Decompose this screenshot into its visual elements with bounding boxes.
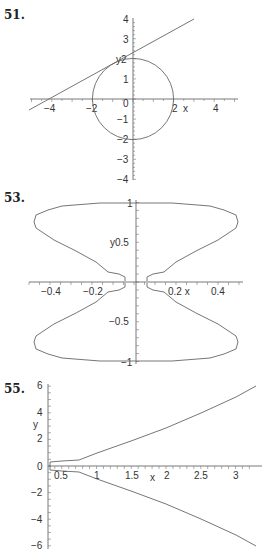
svg-text:2: 2 (164, 470, 170, 481)
svg-text:6: 6 (37, 380, 43, 391)
svg-text:−6: −6 (31, 540, 43, 551)
upper-branch-curve (50, 386, 256, 466)
plot-55: 0.5 1 1.5 x 2 2.5 3 6 4 y 2 0 −2 −4 −6 (0, 0, 267, 556)
svg-text:4: 4 (37, 407, 43, 418)
svg-text:1.5: 1.5 (125, 470, 139, 481)
svg-text:y: y (33, 419, 38, 430)
svg-text:2.5: 2.5 (194, 470, 208, 481)
svg-text:x: x (150, 472, 155, 483)
svg-text:0: 0 (37, 461, 43, 472)
svg-text:−4: −4 (31, 514, 43, 525)
svg-text:3: 3 (233, 470, 239, 481)
svg-text:−2: −2 (31, 487, 43, 498)
svg-text:2: 2 (37, 433, 43, 444)
